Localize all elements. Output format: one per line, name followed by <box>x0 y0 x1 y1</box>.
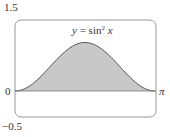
chart-plot <box>0 0 170 137</box>
y-tick-bottom: −0.5 <box>2 121 22 132</box>
title-x: x <box>105 24 113 36</box>
x-tick-pi: π <box>159 86 165 97</box>
y-tick-zero: 0 <box>5 86 11 97</box>
title-eq: = sin <box>77 24 102 36</box>
y-tick-top: 1.5 <box>4 2 18 13</box>
chart-title: y = sin2 x <box>72 25 113 36</box>
chart-container: y = sin2 x 1.5 0 −0.5 π <box>0 0 170 137</box>
area-under-curve <box>15 43 155 92</box>
